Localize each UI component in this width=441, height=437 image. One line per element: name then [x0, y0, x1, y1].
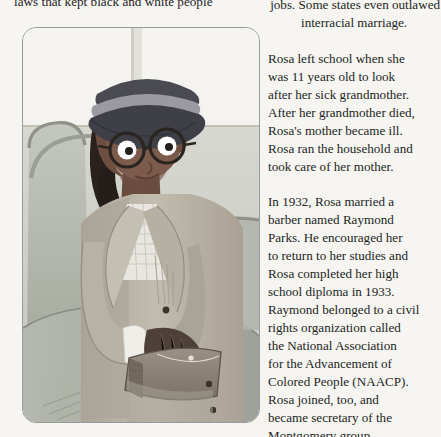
paragraph-outlawed: same jobs. Some states even outlawed int… [268, 0, 441, 32]
text-line: took care of her mother. [268, 158, 441, 176]
text-line: became secretary of the [268, 409, 441, 427]
text-line: the National Association [268, 337, 441, 355]
text-line: Parks. He encouraged her [268, 229, 441, 247]
text-line: barber named Raymond [268, 211, 441, 229]
paragraph-school: Rosa left school when she was 11 years o… [268, 50, 441, 176]
text-line: after her sick grandmother. [268, 86, 441, 104]
paragraph-marriage: In 1932, Rosa married a barber named Ray… [268, 193, 441, 437]
book-page: laws that kept black and white people [0, 0, 441, 437]
text-line: Rosa ran the household and [268, 140, 441, 158]
text-line: Raymond belonged to a civil [268, 301, 441, 319]
illustration-panel [22, 27, 260, 423]
coat-button-lower-1 [206, 381, 212, 387]
rosa-parks-bus-illustration [23, 28, 259, 422]
text-line: interracial marriage. [268, 14, 441, 32]
text-line: In 1932, Rosa married a [268, 193, 441, 211]
text-line: for the Advancement of [268, 355, 441, 373]
text-line: same jobs. Some states even outlawed [268, 0, 413, 14]
text-line: Rosa's mother became ill. [268, 122, 441, 140]
text-line: was 11 years old to look [268, 68, 441, 86]
text-line: After her grandmother died, [268, 104, 441, 122]
text-line: Rosa left school when she [268, 50, 441, 68]
body-text-column: same jobs. Some states even outlawed int… [268, 0, 441, 437]
text-line: Rosa joined, too, and [268, 391, 441, 409]
paragraph-gap [268, 175, 441, 193]
text-line: Montgomery group. [268, 427, 441, 437]
text-line: rights organization called [268, 319, 441, 337]
paragraph-gap [268, 32, 441, 50]
purse-clasp [188, 355, 193, 360]
text-line: Rosa completed her high [268, 265, 441, 283]
coat-button [163, 307, 170, 314]
text-line: to return to her studies and [268, 247, 441, 265]
text-line: school diploma in 1933. [268, 283, 441, 301]
text-line: Colored People (NAACP). [268, 373, 441, 391]
